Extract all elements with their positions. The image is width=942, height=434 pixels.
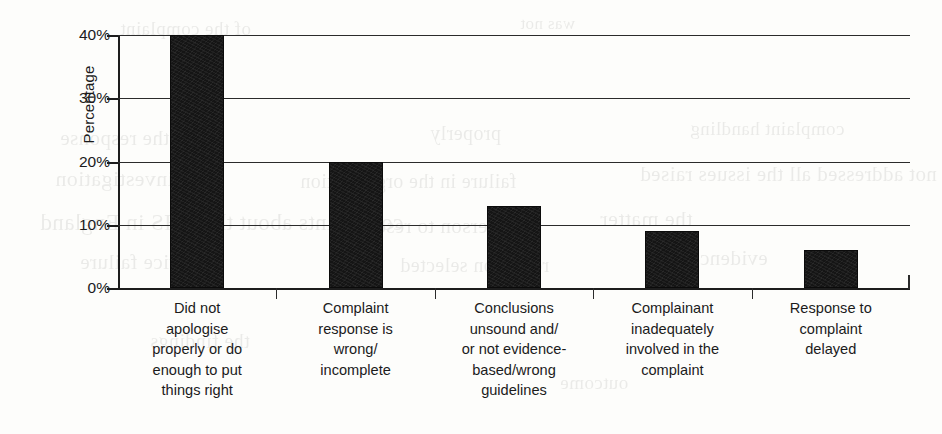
x-axis-baseline — [108, 288, 910, 290]
x-axis-category-label: Response tocomplaintdelayed — [752, 298, 910, 360]
y-axis-tick-labels: 0%10%20%30%40% — [46, 35, 110, 288]
x-axis-label-line: Did not — [118, 298, 276, 319]
gridline — [118, 162, 910, 163]
x-axis-label-line: delayed — [752, 339, 910, 360]
x-axis-label-line: properly or do — [118, 339, 276, 360]
x-axis-label-line: complaint — [752, 319, 910, 340]
bar-chart: Percentage 0%10%20%30%40% Did notapologi… — [0, 0, 942, 434]
plot-area — [118, 35, 910, 288]
y-axis-tick — [107, 98, 118, 100]
y-axis-tick — [107, 35, 118, 37]
y-axis-tick — [107, 225, 118, 227]
x-axis-label-line: wrong/ — [276, 339, 434, 360]
x-axis-category-labels: Did notapologiseproperly or doenough to … — [118, 298, 910, 418]
x-axis-right-cap — [908, 275, 910, 289]
x-axis-label-line: guidelines — [435, 380, 593, 401]
bar — [804, 250, 858, 288]
bar — [645, 231, 699, 288]
y-axis-tick-label: 40% — [46, 26, 110, 44]
bar — [170, 35, 224, 288]
bar — [329, 162, 383, 289]
x-axis-category-label: Complaintresponse iswrong/incomplete — [276, 298, 434, 380]
gridline — [118, 35, 910, 36]
x-axis-label-line: Complainant — [593, 298, 751, 319]
x-axis-label-line: complaint — [593, 360, 751, 381]
y-axis-tick — [107, 162, 118, 164]
y-axis-tick-label: 0% — [46, 279, 110, 297]
x-axis-label-line: apologise — [118, 319, 276, 340]
y-axis-tick — [107, 288, 118, 290]
x-axis-label-line: enough to put — [118, 360, 276, 381]
y-axis-tick-label: 20% — [46, 153, 110, 171]
x-axis-category-label: Conclusionsunsound and/or not evidence-b… — [435, 298, 593, 401]
x-axis-label-line: things right — [118, 380, 276, 401]
x-axis-label-line: Conclusions — [435, 298, 593, 319]
x-axis-label-line: Complaint — [276, 298, 434, 319]
x-axis-label-line: Response to — [752, 298, 910, 319]
x-axis-label-line: incomplete — [276, 360, 434, 381]
x-axis-label-line: involved in the — [593, 339, 751, 360]
x-axis-label-line: inadequately — [593, 319, 751, 340]
x-axis-label-line: response is — [276, 319, 434, 340]
x-axis-label-line: or not evidence- — [435, 339, 593, 360]
y-axis-tick-label: 30% — [46, 89, 110, 107]
y-axis-tick-label: 10% — [46, 216, 110, 234]
gridline — [118, 98, 910, 99]
bar — [487, 206, 541, 288]
x-axis-label-line: based/wrong — [435, 360, 593, 381]
x-axis-category-label: Complainantinadequatelyinvolved in theco… — [593, 298, 751, 380]
x-axis-category-label: Did notapologiseproperly or doenough to … — [118, 298, 276, 401]
x-axis-label-line: unsound and/ — [435, 319, 593, 340]
